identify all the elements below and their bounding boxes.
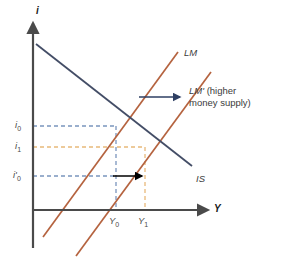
curve-label-is: IS bbox=[196, 174, 205, 184]
tick-label-y0-subscript: 0 bbox=[115, 221, 119, 228]
tick-label-y0: Y0 bbox=[109, 216, 119, 228]
curve-label-lm-prime-note-line2: money supply) bbox=[189, 98, 251, 108]
curve-is bbox=[36, 44, 192, 166]
tick-label-i1: i1 bbox=[15, 141, 21, 153]
tick-label-y1: Y1 bbox=[138, 216, 148, 228]
curve-label-lm-prime: LM' (higher money supply) bbox=[189, 86, 251, 107]
curve-label-lm: LM bbox=[184, 48, 197, 58]
curve-label-lm-prime-note-line1: (higher bbox=[207, 85, 237, 96]
tick-label-y1-subscript: 1 bbox=[144, 221, 148, 228]
curve-label-lm-prime-name: LM' bbox=[189, 85, 204, 96]
tick-label-i0-subscript: 0 bbox=[17, 125, 21, 132]
tick-label-i0: i0 bbox=[15, 120, 21, 132]
tick-label-i-prime-0: i'0 bbox=[13, 170, 21, 182]
tick-label-i1-subscript: 1 bbox=[17, 146, 21, 153]
y-axis-label: i bbox=[36, 6, 39, 16]
is-lm-diagram: i Y i0 i1 i'0 Y0 Y1 LM LM' (higher money… bbox=[0, 0, 281, 258]
tick-label-i-prime-0-subscript: 0 bbox=[17, 175, 21, 182]
x-axis-label: Y bbox=[214, 204, 221, 214]
